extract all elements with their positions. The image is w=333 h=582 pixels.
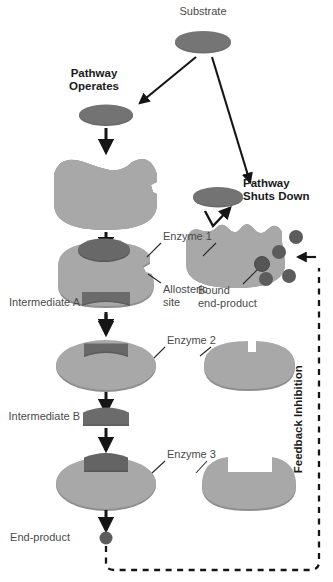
enzyme-2-label: Enzyme 2 — [167, 334, 216, 347]
intermediate-a-label: Intermediate A — [8, 296, 80, 309]
feedback-inhibition-diagram: Substrate Pathway Operates Pathway Shuts… — [0, 0, 333, 582]
feedback-inhibition-label: Feedback Inhibition — [292, 365, 305, 473]
leader-enzyme-2 — [154, 347, 165, 358]
pathway-shuts-down-label-line1: Pathway — [243, 177, 290, 190]
arrow-substrate-to-left — [140, 57, 196, 103]
bound-end-product-shape — [255, 257, 270, 272]
leader-enzyme-3 — [152, 461, 165, 473]
enzyme-3-bound-shape — [56, 453, 156, 511]
free-end-product-3 — [259, 272, 273, 286]
pathway-operates-label-line1: Pathway — [48, 67, 140, 80]
allosteric-site-label-line2: site — [163, 296, 180, 309]
end-product-shape — [100, 532, 113, 545]
enzyme-1-label: Enzyme 1 — [163, 230, 212, 243]
free-end-product-2 — [272, 245, 286, 259]
pathway-operates-label-line2: Operates — [48, 80, 140, 93]
pathway-shuts-down-label-line2: Shuts Down — [243, 190, 309, 203]
free-end-product-1 — [289, 230, 303, 244]
intermediate-b-label: Intermediate B — [8, 410, 80, 423]
intermediate-b-shape — [83, 408, 129, 427]
leader-enzyme-1 — [147, 243, 161, 257]
free-end-product-4 — [282, 269, 296, 283]
arrow-substrate-to-right — [212, 57, 250, 182]
substrate-label: Substrate — [167, 5, 239, 18]
substrate-shape — [175, 31, 231, 54]
rejected-substrate-shape — [193, 187, 243, 208]
bound-end-product-label-line1: Bound — [198, 284, 230, 297]
enzyme-2-empty-shape — [204, 341, 295, 391]
end-product-label: End-product — [10, 531, 70, 544]
arrow-rejection — [205, 208, 230, 226]
left-substrate-shape — [79, 105, 133, 127]
enzyme-3-empty-shape — [202, 457, 296, 511]
feedback-inhibition-path — [106, 268, 319, 570]
enzyme-2-bound-shape — [56, 340, 156, 392]
bound-end-product-label-line2: end-product — [198, 297, 257, 310]
enzyme-1-open-shape — [50, 148, 166, 240]
enzyme-3-label: Enzyme 3 — [167, 448, 216, 461]
